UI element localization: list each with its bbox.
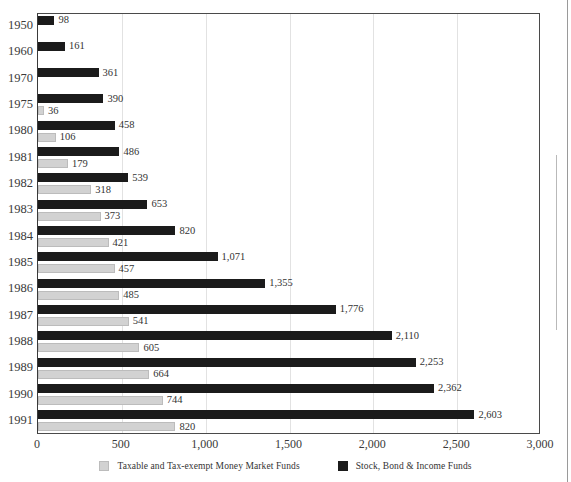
y-axis-label-1982: 1982 — [0, 176, 33, 191]
bar-value-label: 653 — [151, 199, 167, 208]
bar-stock-bond-income-1991[interactable] — [38, 410, 474, 419]
bar-group: 2,603820 — [38, 409, 539, 435]
bar-stock-bond-income-1990[interactable] — [38, 384, 434, 393]
bar-money-market-1983[interactable] — [38, 212, 101, 221]
y-axis-label-1981: 1981 — [0, 150, 33, 165]
bar-stock-bond-income-1980[interactable] — [38, 121, 115, 130]
bar-stock-bond-income-1983[interactable] — [38, 200, 147, 209]
bar-group: 458106 — [38, 119, 539, 145]
bar-group: 2,110605 — [38, 330, 539, 356]
y-axis-label-1990: 1990 — [0, 387, 33, 402]
bar-value-label: 36 — [48, 106, 59, 115]
y-axis-label-1984: 1984 — [0, 229, 33, 244]
bar-group: 2,253664 — [38, 356, 539, 382]
bar-stock-bond-income-1975[interactable] — [38, 94, 103, 103]
x-tick-0: 0 — [34, 437, 40, 452]
x-tick-2000: 2,000 — [359, 437, 386, 452]
bar-value-label: 2,110 — [396, 331, 419, 340]
page-edge-artifact-secondary — [556, 155, 557, 330]
bar-value-label: 820 — [179, 226, 195, 235]
bar-money-market-1975[interactable] — [38, 106, 44, 115]
bar-group: 39036 — [38, 93, 539, 119]
bar-value-label: 664 — [153, 369, 169, 378]
bar-stock-bond-income-1985[interactable] — [38, 252, 218, 261]
bar-chart: 9816136139036458106486179539318653373820… — [0, 0, 571, 482]
bar-value-label: 161 — [69, 41, 85, 50]
bar-value-label: 373 — [105, 211, 121, 220]
bar-group: 820421 — [38, 225, 539, 251]
bar-stock-bond-income-1987[interactable] — [38, 305, 336, 314]
bar-money-market-1984[interactable] — [38, 238, 109, 247]
bar-stock-bond-income-1989[interactable] — [38, 358, 416, 367]
bar-value-label: 179 — [72, 159, 88, 168]
bar-group: 486179 — [38, 146, 539, 172]
bar-value-label: 1,776 — [340, 304, 364, 313]
legend-swatch-icon — [99, 461, 109, 471]
y-axis-label-1950: 1950 — [0, 18, 33, 33]
bar-value-label: 486 — [123, 147, 139, 156]
y-axis-label-1991: 1991 — [0, 413, 33, 428]
bar-group: 98 — [38, 14, 539, 40]
bar-stock-bond-income-1970[interactable] — [38, 68, 99, 77]
bar-money-market-1990[interactable] — [38, 396, 163, 405]
bar-group: 2,362744 — [38, 382, 539, 408]
legend-swatch-icon — [338, 461, 348, 471]
bar-money-market-1985[interactable] — [38, 264, 115, 273]
bar-group: 361 — [38, 67, 539, 93]
x-tick-1000: 1,000 — [191, 437, 218, 452]
bar-value-label: 390 — [107, 94, 123, 103]
bar-stock-bond-income-1984[interactable] — [38, 226, 175, 235]
chart-legend: Taxable and Tax-exempt Money Market Fund… — [0, 461, 571, 471]
bar-value-label: 421 — [113, 238, 129, 247]
bar-group: 653373 — [38, 198, 539, 224]
x-tick-500: 500 — [112, 437, 130, 452]
bar-value-label: 744 — [167, 395, 183, 404]
x-tick-3000: 3,000 — [527, 437, 554, 452]
bar-stock-bond-income-1988[interactable] — [38, 331, 392, 340]
legend-item-money-market[interactable]: Taxable and Tax-exempt Money Market Fund… — [99, 461, 299, 471]
legend-label: Taxable and Tax-exempt Money Market Fund… — [117, 461, 299, 471]
page-edge-artifact — [567, 0, 568, 482]
bar-stock-bond-income-1986[interactable] — [38, 279, 265, 288]
y-axis-label-1983: 1983 — [0, 202, 33, 217]
bar-stock-bond-income-1982[interactable] — [38, 173, 128, 182]
bar-value-label: 820 — [179, 422, 195, 431]
bar-group: 1,071457 — [38, 251, 539, 277]
bar-value-label: 539 — [132, 173, 148, 182]
bar-group: 1,776541 — [38, 303, 539, 329]
bar-money-market-1989[interactable] — [38, 370, 149, 379]
plot-area: 9816136139036458106486179539318653373820… — [37, 13, 540, 434]
bar-group: 539318 — [38, 172, 539, 198]
bar-stock-bond-income-1950[interactable] — [38, 16, 54, 25]
bar-value-label: 98 — [58, 15, 69, 24]
bar-value-label: 106 — [60, 132, 76, 141]
y-axis-label-1980: 1980 — [0, 123, 33, 138]
y-axis-label-1970: 1970 — [0, 71, 33, 86]
y-axis-label-1960: 1960 — [0, 44, 33, 59]
bar-value-label: 1,071 — [222, 252, 246, 261]
bar-value-label: 2,603 — [478, 410, 502, 419]
bar-value-label: 458 — [119, 120, 135, 129]
bar-value-label: 605 — [143, 343, 159, 352]
y-axis-label-1985: 1985 — [0, 255, 33, 270]
bar-value-label: 1,355 — [269, 278, 293, 287]
bar-money-market-1988[interactable] — [38, 343, 139, 352]
y-axis-label-1986: 1986 — [0, 281, 33, 296]
y-axis-label-1989: 1989 — [0, 360, 33, 375]
bar-money-market-1982[interactable] — [38, 185, 91, 194]
x-tick-2500: 2,500 — [443, 437, 470, 452]
bar-money-market-1987[interactable] — [38, 317, 129, 326]
bar-money-market-1986[interactable] — [38, 291, 119, 300]
bar-stock-bond-income-1981[interactable] — [38, 147, 119, 156]
legend-item-stock-bond-income[interactable]: Stock, Bond & Income Funds — [338, 461, 472, 471]
bar-money-market-1980[interactable] — [38, 133, 56, 142]
bar-value-label: 541 — [133, 316, 149, 325]
bar-money-market-1991[interactable] — [38, 422, 175, 431]
bar-money-market-1981[interactable] — [38, 159, 68, 168]
y-axis-label-1988: 1988 — [0, 334, 33, 349]
bar-value-label: 485 — [123, 290, 139, 299]
bar-value-label: 457 — [119, 264, 135, 273]
bar-stock-bond-income-1960[interactable] — [38, 42, 65, 51]
bar-value-label: 2,253 — [420, 357, 444, 366]
bar-group: 161 — [38, 40, 539, 66]
